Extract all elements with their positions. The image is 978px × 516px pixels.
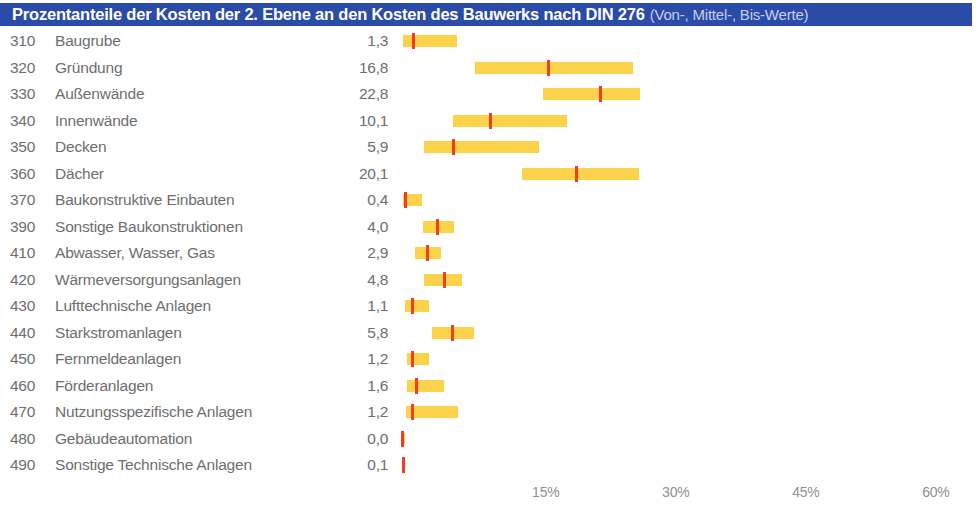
table-row: 460Förderanlagen1,6 [0,373,978,400]
range-bar-track [0,81,978,108]
mid-value-marker [401,431,404,447]
range-bar-track [0,108,978,135]
axis-tick-label: 45% [792,484,819,500]
mid-value-marker [415,378,418,394]
range-bar [405,300,428,312]
range-bar-track [0,267,978,294]
range-bar-track [0,240,978,267]
range-bar-track [0,28,978,55]
x-axis-tick-labels: 15%30%45%60% [0,484,978,508]
table-row: 360Dächer20,1 [0,161,978,188]
range-bar-track [0,161,978,188]
table-row: 320Gründung16,8 [0,55,978,82]
table-row: 390Sonstige Baukonstruktionen4,0 [0,214,978,241]
range-bar-track [0,187,978,214]
table-row: 330Außenwände22,8 [0,81,978,108]
mid-value-marker [547,60,550,76]
table-row: 450Fernmeldeanlagen1,2 [0,346,978,373]
mid-value-marker [426,245,429,261]
table-row: 370Baukonstruktive Einbauten0,4 [0,187,978,214]
mid-value-marker [404,192,407,208]
range-bar-track [0,399,978,426]
range-bar-track [0,320,978,347]
range-bar [424,141,539,153]
mid-value-marker [451,325,454,341]
range-bar [543,88,639,100]
mid-value-marker [436,219,439,235]
range-bar [403,35,458,47]
range-bar [453,115,567,127]
range-bar-track [0,214,978,241]
mid-value-marker [402,457,405,473]
table-row: 470Nutzungsspezifische Anlagen1,2 [0,399,978,426]
chart-title-bar: Prozentanteile der Kosten der 2. Ebene a… [6,3,972,26]
range-bar-track [0,452,978,479]
mid-value-marker [452,139,455,155]
range-bar [475,62,633,74]
axis-tick-label: 15% [532,484,559,500]
axis-tick-label: 30% [662,484,689,500]
table-row: 350Decken5,9 [0,134,978,161]
range-bar-track [0,134,978,161]
mid-value-marker [411,298,414,314]
axis-tick-label: 60% [922,484,949,500]
range-bar-track [0,293,978,320]
table-row: 490Sonstige Technische Anlagen0,1 [0,452,978,479]
page-subtitle: (Von-, Mittel-, Bis-Werte) [650,6,809,23]
table-row: 420Wärmeversorgungsanlagen4,8 [0,267,978,294]
table-row: 430Lufttechnische Anlagen1,1 [0,293,978,320]
mid-value-marker [411,351,414,367]
range-bar-track [0,373,978,400]
range-bar [522,168,639,180]
mid-value-marker [489,113,492,129]
mid-value-marker [443,272,446,288]
table-row: 410Abwasser, Wasser, Gas2,9 [0,240,978,267]
range-bar-track [0,426,978,453]
table-row: 440Starkstromanlagen5,8 [0,320,978,347]
table-row: 340Innenwände10,1 [0,108,978,135]
page-title: Prozentanteile der Kosten der 2. Ebene a… [12,5,645,24]
table-row: 310Baugrube1,3 [0,28,978,55]
range-bar [407,380,444,392]
table-row: 480Gebäudeautomation0,0 [0,426,978,453]
mid-value-marker [411,404,414,420]
mid-value-marker [412,33,415,49]
range-bar-track [0,55,978,82]
range-bar-track [0,346,978,373]
mid-value-marker [599,86,602,102]
mid-value-marker [575,166,578,182]
chart-plot-area: 310Baugrube1,3320Gründung16,8330Außenwän… [0,28,978,468]
